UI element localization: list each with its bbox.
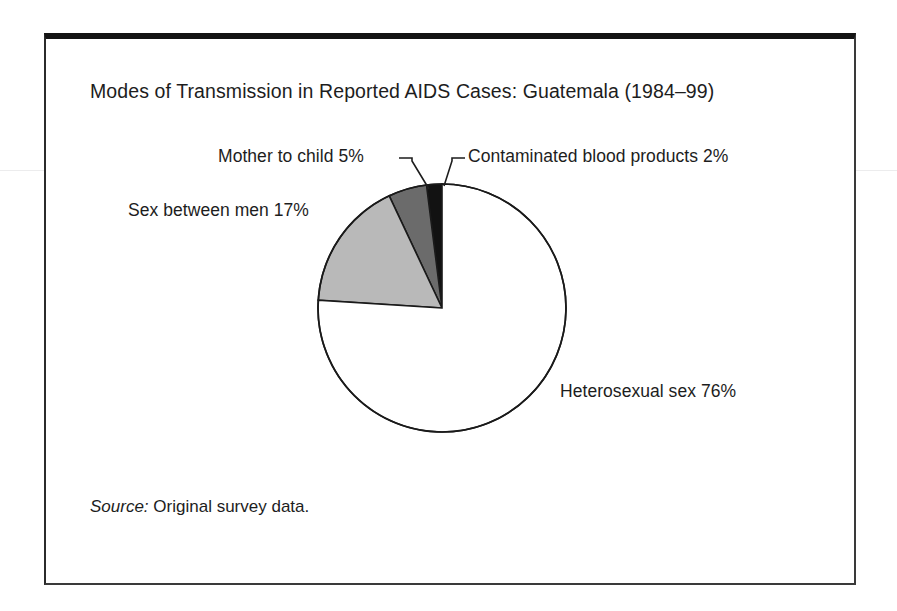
pie-label-sex-between-men: Sex between men 17% xyxy=(128,200,309,221)
source-note-label: Source: xyxy=(90,497,149,516)
pie-label-heterosexual-sex: Heterosexual sex 76% xyxy=(560,381,736,402)
source-note: Source: Original survey data. xyxy=(90,497,309,517)
source-note-text: Original survey data. xyxy=(153,497,309,516)
page-title: Modes of Transmission in Reported AIDS C… xyxy=(90,80,790,103)
pie-label-mother-to-child: Mother to child 5% xyxy=(218,146,364,167)
pie-label-contaminated-blood-products: Contaminated blood products 2% xyxy=(468,146,728,167)
